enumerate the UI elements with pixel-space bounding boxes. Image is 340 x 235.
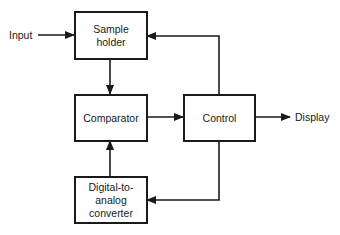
block-label: Control (203, 112, 237, 125)
input-label: Input (9, 29, 32, 41)
block-control: Control (183, 94, 256, 142)
arrow-control-to-sample-holder (147, 36, 219, 94)
block-label: Digital-to- (89, 181, 134, 194)
block-label: holder (93, 36, 129, 49)
block-label: converter (89, 207, 134, 220)
block-comparator: Comparator (74, 94, 148, 142)
block-label: analog (89, 194, 134, 207)
display-label: Display (295, 111, 329, 123)
block-digital-to-analog-converter: Digital-to- analog converter (74, 176, 148, 224)
arrow-control-to-dac (147, 141, 219, 200)
block-label: Sample (93, 23, 129, 36)
block-sample-holder: Sample holder (74, 11, 148, 60)
block-label: Comparator (83, 112, 138, 125)
connection-lines (0, 0, 340, 235)
